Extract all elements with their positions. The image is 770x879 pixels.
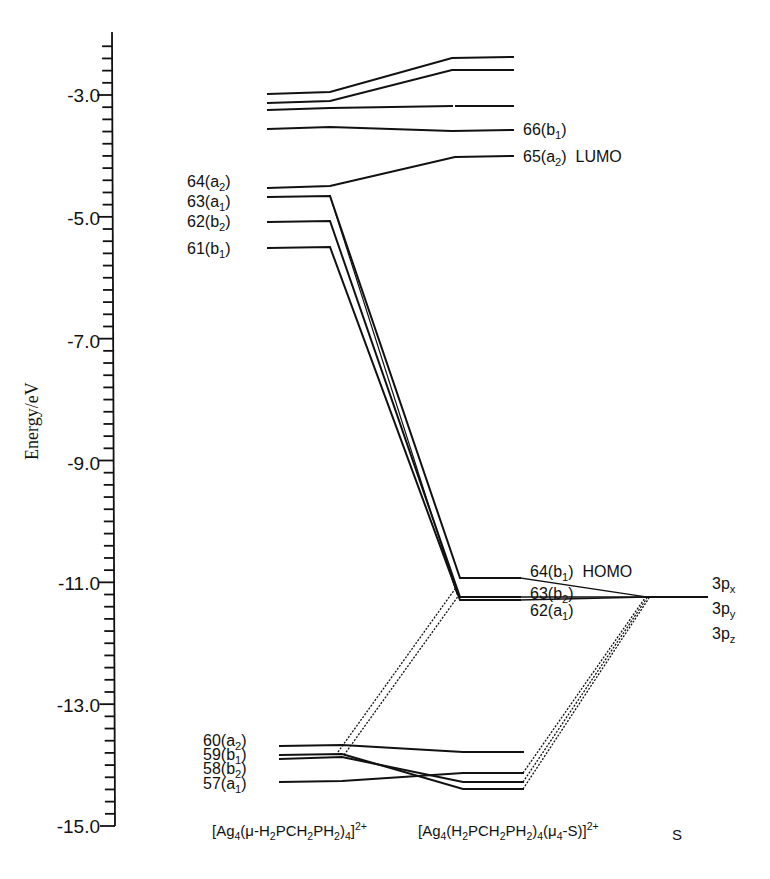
energy-levels [268,57,707,789]
level-61b1 [268,247,520,600]
label-3py: 3py [712,601,735,622]
label-66b1: 66(b1) [523,122,567,143]
level-60a2 [280,745,523,752]
mo-diagram [0,0,770,879]
y-axis-label: Energy/eV [22,382,43,460]
correlation-dotted-lines [338,589,649,789]
column-label-s: S [672,826,682,843]
label-61b1: 61(b1) [187,241,231,262]
column-label-ag4-dppm-s: [Ag4(H2PCH2PH2)4(μ4-S)]2+ [418,820,599,842]
left-level-1 [268,57,513,94]
ytick-label-7: -7.0 [20,332,100,351]
ytick-label-5: -5.0 [20,209,100,228]
level-64a2-to-65a2 [268,156,513,188]
label-65a2-lumo: 65(a2) LUMO [523,149,622,170]
label-62a1: 62(a1) [530,603,574,624]
left-level-4 [268,127,513,131]
label-3px: 3px [712,576,735,597]
level-62b2 [268,221,520,597]
ytick-label-13: -13.0 [20,696,100,715]
level-58b2 [280,757,523,782]
label-57a1: 57(a1) [203,776,247,797]
label-64a2: 64(a2) [187,174,231,195]
label-64b1-homo: 64(b1) HOMO [530,564,632,585]
level-57a1 [280,773,523,782]
level-63a1 [268,196,520,578]
left-level-3 [268,106,452,110]
level-59b1 [280,754,523,789]
ytick-label-11: -11.0 [20,574,100,593]
label-3pz: 3pz [712,626,735,647]
ytick-label-15: -15.0 [20,817,100,836]
column-label-ag4-dppm: [Ag4(μ-H2PCH2PH2)4]2+ [212,820,367,842]
label-62b2: 62(b2) [187,214,231,235]
label-63a1: 63(a1) [187,194,231,215]
ytick-label-3: -3.0 [20,86,100,105]
